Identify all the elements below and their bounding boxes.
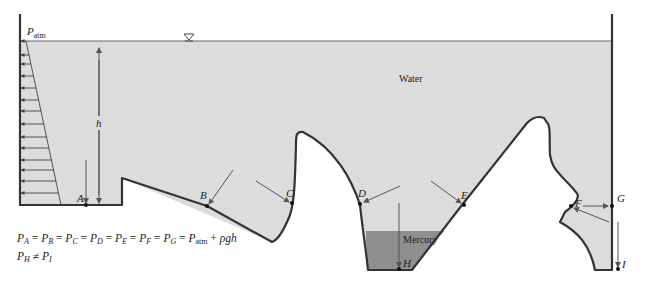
- svg-text:D: D: [357, 187, 366, 199]
- point-I: I: [616, 222, 627, 271]
- pressure-equality-equation: PA = PB = PC = PD = PE = PF = PG = Patm …: [17, 232, 237, 246]
- mercury-label: Mercury: [403, 234, 437, 245]
- svg-text:F: F: [574, 197, 582, 209]
- svg-text:C: C: [286, 187, 294, 199]
- svg-text:B: B: [200, 189, 207, 201]
- water-label: Water: [399, 73, 423, 84]
- svg-text:G: G: [617, 192, 625, 204]
- svg-text:I: I: [621, 258, 627, 270]
- pressure-inequality-equation: PH ≠ PI: [17, 250, 52, 264]
- svg-text:H: H: [402, 257, 412, 269]
- svg-text:A: A: [76, 192, 84, 204]
- patm-label: Patm: [26, 25, 47, 40]
- svg-text:h: h: [96, 117, 102, 129]
- free-surface-icon: [184, 34, 194, 41]
- svg-text:E: E: [460, 189, 468, 201]
